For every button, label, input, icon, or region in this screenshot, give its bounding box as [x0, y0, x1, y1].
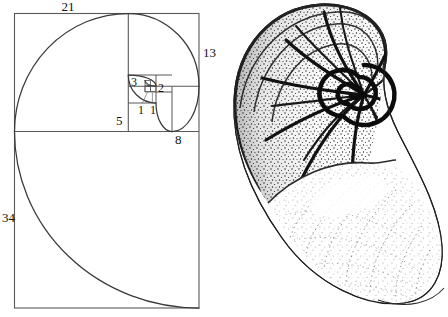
- fibonacci-diagram-panel: 21 13 8 5 3 2 1 1 34: [0, 0, 228, 317]
- nautilus-shell-panel: [228, 0, 448, 317]
- figure-root: 21 13 8 5 3 2 1 1 34: [0, 0, 448, 317]
- unit-square-1a: [145, 86, 151, 92]
- spiral-arc-34: [15, 132, 200, 309]
- label-8: 8: [175, 132, 182, 147]
- label-2: 2: [158, 81, 164, 95]
- label-5: 5: [116, 113, 123, 128]
- nautilus-shell-svg: [228, 0, 448, 317]
- label-34: 34: [2, 210, 16, 225]
- unit-square-1b: [151, 86, 157, 92]
- label-13: 13: [203, 45, 216, 60]
- outer-rectangle: [15, 14, 200, 309]
- spiral-arc-8: [172, 86, 199, 131]
- label-21: 21: [62, 0, 75, 14]
- fibonacci-spiral-svg: 21 13 8 5 3 2 1 1 34: [0, 0, 228, 317]
- label-3: 3: [131, 75, 137, 89]
- spiral-arc-21: [15, 14, 129, 132]
- label-1a: 1: [138, 103, 144, 117]
- label-1b: 1: [150, 103, 156, 117]
